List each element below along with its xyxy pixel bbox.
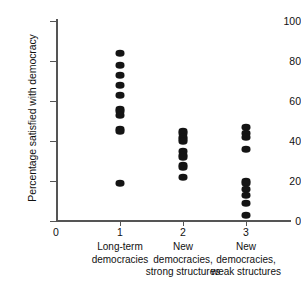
- x-tick-label: 2: [153, 226, 213, 238]
- dot-plot-chart: Percentage satisfied with democracy 0204…: [0, 0, 301, 290]
- data-point: [179, 164, 188, 171]
- y-tick-mark: [50, 21, 56, 22]
- x-category-label-line: New: [198, 241, 294, 254]
- y-tick-label: 100: [259, 15, 301, 27]
- y-tick-mark: [50, 61, 56, 62]
- y-axis-line: [56, 19, 58, 222]
- y-tick-mark: [50, 141, 56, 142]
- origin-label: 0: [26, 226, 86, 238]
- data-point: [242, 134, 251, 141]
- data-point: [179, 174, 188, 181]
- data-point: [116, 92, 125, 99]
- y-tick-label: 20: [259, 175, 301, 187]
- data-point: [116, 180, 125, 187]
- y-tick-mark: [50, 221, 56, 222]
- y-tick-label: 60: [259, 95, 301, 107]
- x-category-label-line: weak structures: [198, 266, 294, 279]
- x-axis-line: [56, 220, 291, 222]
- y-tick-label: 80: [259, 55, 301, 67]
- y-tick-mark: [50, 101, 56, 102]
- data-point: [242, 146, 251, 153]
- data-point: [116, 128, 125, 135]
- data-point: [116, 72, 125, 79]
- x-tick-label: 3: [216, 226, 276, 238]
- data-point: [116, 82, 125, 89]
- data-point: [116, 50, 125, 57]
- data-point: [242, 200, 251, 207]
- x-category-label-line: democracies,: [198, 254, 294, 267]
- data-point: [116, 112, 125, 119]
- data-point: [242, 192, 251, 199]
- data-point: [179, 154, 188, 161]
- y-tick-label: 40: [259, 135, 301, 147]
- x-category-label: Newdemocracies,weak structures: [198, 241, 294, 279]
- data-point: [179, 138, 188, 145]
- data-point: [242, 212, 251, 219]
- data-point: [116, 62, 125, 69]
- y-tick-mark: [50, 181, 56, 182]
- y-axis-title: Percentage satisfied with democracy: [26, 18, 38, 218]
- x-tick-label: 1: [90, 226, 150, 238]
